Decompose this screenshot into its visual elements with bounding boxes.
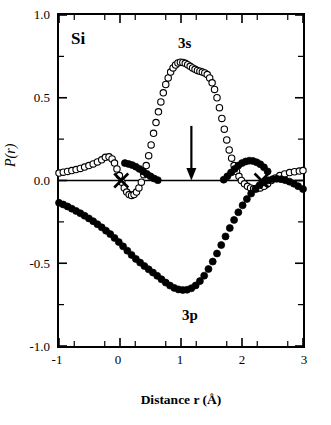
data-point — [228, 155, 234, 161]
plot-canvas — [59, 15, 303, 346]
data-point — [211, 86, 217, 92]
data-point — [300, 186, 307, 193]
data-point — [154, 177, 161, 184]
data-point — [214, 95, 220, 101]
x-tick-label: 0 — [98, 352, 138, 368]
data-point — [138, 179, 144, 185]
data-point — [239, 202, 246, 209]
data-point — [300, 167, 306, 173]
arrow-head — [186, 168, 196, 180]
y-tick-label: 0.5 — [2, 90, 50, 106]
x-tick-label: -1 — [37, 352, 77, 368]
label-3s: 3s — [178, 35, 191, 52]
y-tick-label: 0.0 — [2, 173, 50, 189]
data-point — [209, 258, 216, 265]
data-point — [158, 99, 164, 105]
x-tick-label: 2 — [222, 352, 262, 368]
x-axis-title: Distance r (Å) — [57, 392, 305, 408]
x-axis-title-text: Distance r (Å) — [141, 392, 222, 407]
data-point — [209, 80, 215, 86]
data-point — [160, 90, 166, 96]
series-3p — [56, 157, 307, 293]
data-point — [235, 209, 242, 216]
y-tick-label: -0.5 — [2, 256, 50, 272]
data-point — [114, 166, 120, 172]
x-tick-label: 3 — [284, 352, 324, 368]
data-point — [226, 225, 233, 232]
data-point — [205, 266, 212, 273]
data-point — [145, 152, 151, 158]
data-point — [213, 250, 220, 257]
chart-figure: P(r) 1.0 0.5 0.0 -0.5 -1.0 -1 0 1 2 3 Di… — [0, 0, 331, 425]
data-layer — [59, 15, 303, 346]
x-tick-label: 1 — [160, 352, 200, 368]
data-point — [221, 126, 227, 132]
data-point — [153, 119, 159, 125]
data-point — [148, 142, 154, 148]
label-si: Si — [71, 29, 85, 49]
data-point — [216, 104, 222, 110]
data-point — [218, 242, 225, 249]
data-point — [163, 81, 169, 87]
y-axis-title: P(r) — [3, 149, 19, 167]
data-point — [150, 130, 156, 136]
y-tick-label: 1.0 — [2, 7, 50, 23]
data-point — [219, 115, 225, 121]
plot-area: Si 3s 3p — [57, 13, 305, 348]
data-point — [220, 176, 227, 183]
y-axis-title-text: P(r) — [3, 144, 18, 167]
label-3p: 3p — [182, 307, 198, 324]
data-point — [224, 137, 230, 143]
data-point — [222, 233, 229, 240]
data-point — [201, 272, 208, 279]
data-point — [226, 147, 232, 153]
data-point — [155, 109, 161, 115]
data-point — [231, 216, 238, 223]
